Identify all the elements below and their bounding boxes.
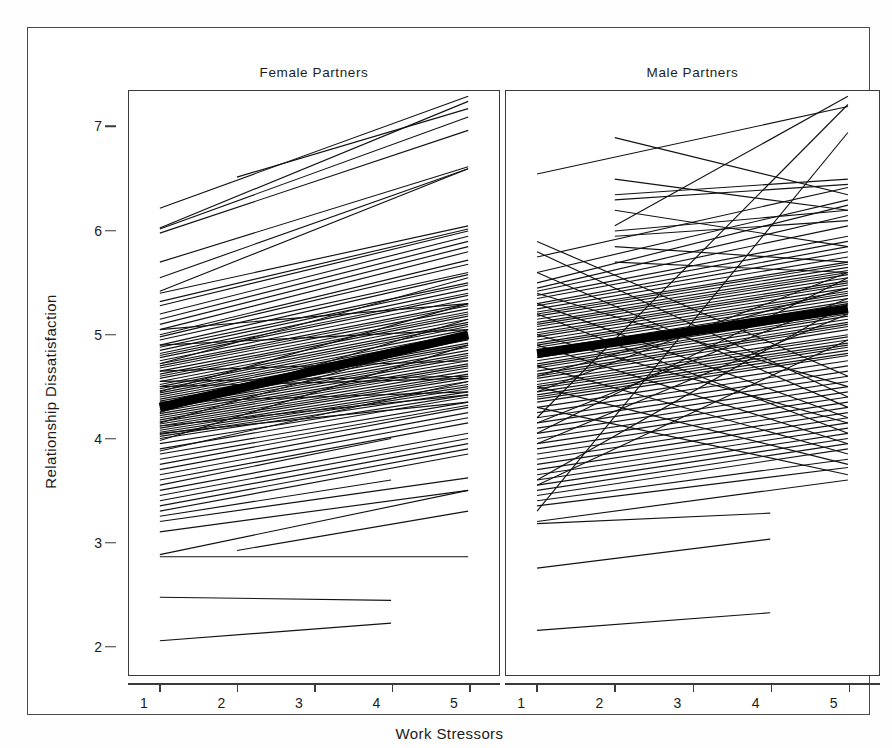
y-tick-label: 4 — [94, 431, 102, 447]
figure-frame: Female Partners Male Partners 234567 Rel… — [27, 27, 870, 715]
x-tick-label: 3 — [284, 695, 314, 711]
individual-regression-line — [160, 96, 468, 208]
x-tick-mark — [314, 683, 316, 692]
x-tick-label: 2 — [207, 695, 237, 711]
individual-regression-line — [160, 169, 468, 278]
figure-root: Female Partners Male Partners 234567 Rel… — [0, 0, 892, 748]
y-axis-title: Relationship Dissatisfaction — [42, 162, 59, 622]
y-tick-label: 6 — [94, 223, 102, 239]
individual-regression-line — [537, 444, 848, 491]
y-tick-label: 7 — [94, 118, 102, 134]
individual-regression-line — [160, 130, 468, 233]
x-tick-label: 1 — [506, 695, 536, 711]
y-tick-mark — [105, 542, 116, 544]
individual-regression-line — [537, 407, 848, 454]
individual-regression-line — [160, 169, 468, 291]
x-tick-mark — [693, 683, 695, 692]
individual-regression-line — [537, 539, 770, 568]
individual-regression-line — [537, 423, 848, 470]
x-tick-mark — [159, 683, 161, 692]
y-tick-label: 5 — [94, 327, 102, 343]
individual-regression-line — [160, 433, 468, 490]
individual-regression-line — [537, 340, 848, 485]
x-tick-label: 3 — [663, 695, 693, 711]
individual-regression-line — [160, 438, 391, 485]
x-tick-mark — [614, 683, 616, 692]
x-tick-label: 5 — [439, 695, 469, 711]
individual-regression-line — [160, 438, 468, 495]
y-tick-mark — [105, 438, 116, 440]
x-tick-label: 4 — [741, 695, 771, 711]
individual-regression-line — [537, 428, 848, 475]
individual-regression-line — [537, 438, 848, 485]
x-tick-mark — [392, 683, 394, 692]
x-tick-label: 1 — [129, 695, 159, 711]
individual-regression-line — [237, 109, 468, 177]
y-tick-mark — [105, 126, 116, 128]
individual-regression-line — [160, 117, 468, 229]
y-tick-label: 3 — [94, 535, 102, 551]
x-tick-mark — [849, 683, 851, 692]
individual-regression-line — [537, 513, 770, 523]
x-tick-mark — [771, 683, 773, 692]
individual-regression-line — [537, 613, 770, 631]
individual-regression-line — [537, 252, 848, 397]
individual-regression-line — [615, 96, 848, 226]
individual-regression-line — [160, 454, 468, 511]
panel-title-male: Male Partners — [505, 65, 880, 80]
individual-regression-line — [160, 449, 468, 506]
y-tick-mark — [105, 334, 116, 336]
y-tick-mark — [105, 646, 116, 648]
individual-regression-line — [537, 449, 848, 496]
x-tick-label: 5 — [819, 695, 849, 711]
individual-regression-line — [160, 597, 391, 600]
individual-regression-line — [537, 459, 848, 500]
individual-regression-line — [160, 480, 391, 516]
individual-regression-line — [537, 107, 848, 174]
spaghetti-lines-male — [506, 91, 879, 675]
x-axis-title: Work Stressors — [28, 725, 871, 742]
x-tick-label: 4 — [362, 695, 392, 711]
plot-panel-male — [505, 90, 880, 676]
x-tick-mark — [536, 683, 538, 692]
plot-panel-female — [128, 90, 500, 676]
panel-title-female: Female Partners — [128, 65, 500, 80]
individual-regression-line — [160, 623, 391, 641]
spaghetti-lines-female — [129, 91, 499, 675]
individual-regression-line — [160, 490, 468, 531]
individual-regression-line — [160, 101, 468, 228]
y-tick-label: 2 — [94, 639, 102, 655]
x-tick-label: 2 — [584, 695, 614, 711]
x-tick-mark — [469, 683, 471, 692]
y-tick-mark — [105, 230, 116, 232]
x-tick-mark — [237, 683, 239, 692]
